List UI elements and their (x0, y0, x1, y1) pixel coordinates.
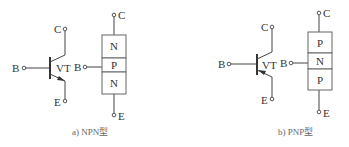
npn-collector-terminal (63, 27, 67, 31)
pnp-symbol: B C E VT (218, 21, 277, 106)
npn-emitter-terminal (63, 99, 67, 103)
npn-collector-label: C (54, 23, 61, 35)
pnp-collector-lead (257, 29, 272, 59)
pnp-emitter-terminal (270, 97, 274, 101)
npn-designator: VT (56, 62, 71, 74)
npn-struct-collector-terminal (112, 13, 116, 17)
pnp-layer-2-label: N (316, 55, 324, 67)
pnp-struct-collector-terminal (317, 11, 321, 15)
npn-collector-lead (50, 31, 65, 62)
pnp-base-label: B (218, 58, 225, 70)
npn-layer-1-label: N (110, 40, 118, 52)
pnp-emitter-lead (257, 70, 272, 97)
npn-struct-base-label: B (74, 61, 81, 73)
pnp-struct-emitter-terminal (317, 110, 321, 114)
npn-caption: a) NPN型 (72, 127, 108, 137)
npn-layer-3-label: N (110, 77, 118, 89)
npn-symbol: B C E VT (12, 23, 71, 108)
pnp-structure: P N P C E B (280, 7, 332, 119)
npn-struct-emitter-terminal (112, 113, 116, 117)
npn-emitter-arrow-icon (57, 76, 65, 81)
pnp-emitter-label: E (261, 94, 268, 106)
npn-struct-emitter-label: E (118, 110, 125, 122)
npn-struct-collector-label: C (118, 9, 125, 21)
pnp-struct-base-label: B (280, 57, 287, 69)
pnp-layer-3-label: P (317, 74, 323, 86)
pnp-struct-base-terminal (289, 61, 293, 65)
pnp-layer-1-label: P (317, 37, 323, 49)
pnp-struct-emitter-label: E (323, 107, 330, 119)
pnp-designator: VT (262, 59, 277, 71)
pnp-struct-collector-label: C (323, 7, 330, 19)
npn-structure: N P N C E B (74, 9, 126, 122)
npn-layer-2-label: P (111, 59, 117, 71)
npn-base-terminal (22, 66, 26, 70)
pnp-collector-terminal (270, 25, 274, 29)
pnp-base-terminal (227, 62, 231, 66)
npn-struct-base-terminal (83, 65, 87, 69)
transistor-diagram: B C E VT N P N C E B a) NPN型 B C E VT (0, 0, 349, 147)
npn-emitter-label: E (54, 96, 61, 108)
npn-base-label: B (12, 62, 19, 74)
pnp-caption: b) PNP型 (278, 127, 313, 137)
pnp-collector-label: C (261, 21, 268, 33)
